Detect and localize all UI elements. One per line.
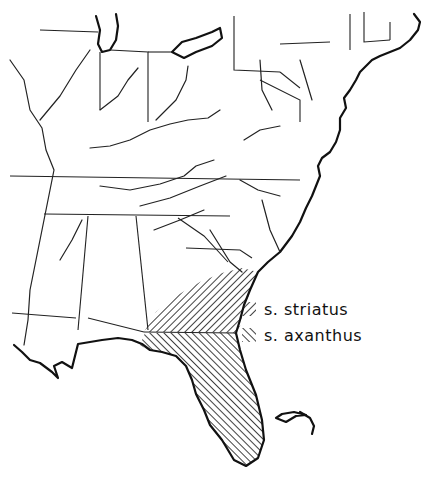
lake-michigan — [96, 14, 118, 52]
legend-label: s. striatus — [264, 300, 348, 319]
legend: s. striatus s. axanthus — [242, 296, 362, 348]
range-map — [0, 0, 428, 483]
hatch-backslash-swatch-icon — [242, 302, 256, 316]
range-striatus — [144, 268, 258, 333]
range-axanthus — [140, 333, 264, 466]
legend-item-striatus: s. striatus — [242, 296, 362, 322]
legend-item-axanthus: s. axanthus — [242, 322, 362, 348]
legend-label: s. axanthus — [264, 326, 362, 345]
hatch-slash-swatch-icon — [242, 328, 256, 342]
lake-erie — [172, 28, 222, 58]
